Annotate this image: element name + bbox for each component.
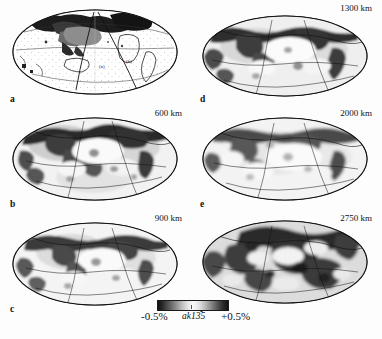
mollweide-map-a <box>2 2 188 105</box>
map-panel-a: (a) (b) a <box>2 2 188 105</box>
panel-depth-e: 2000 km <box>340 109 372 118</box>
cross-section-label-a: (a) <box>99 64 105 69</box>
panel-letter-a: a <box>10 95 15 105</box>
panel-depth-f: 2750 km <box>340 214 372 223</box>
mollweide-map-d <box>192 2 378 105</box>
cross-section-label-b: (b) <box>126 59 132 64</box>
panel-letter-b: b <box>10 200 15 210</box>
map-panel-b: b 600 km <box>2 107 188 210</box>
colorbar-model-label: ak135 <box>182 312 205 322</box>
panel-letter-d: d <box>200 95 205 105</box>
panel-depth-d: 1300 km <box>340 4 372 13</box>
mollweide-map-b <box>2 107 188 210</box>
colorbar-group: -0.5% ak135 +0.5% <box>0 299 382 339</box>
colorbar-min-label: -0.5% <box>141 311 168 322</box>
panel-letter-e: e <box>200 200 204 210</box>
colorbar-center-tick <box>191 305 192 309</box>
mollweide-map-e <box>192 107 378 210</box>
map-panel-e: e 2000 km <box>192 107 378 210</box>
panel-depth-b: 600 km <box>155 109 182 118</box>
tomography-figure: (a) (b) a <box>0 0 382 339</box>
map-panel-d: d 1300 km <box>192 2 378 105</box>
panel-depth-c: 900 km <box>155 214 182 223</box>
colorbar-max-label: +0.5% <box>221 311 250 322</box>
colorbar-gradient <box>157 300 229 311</box>
